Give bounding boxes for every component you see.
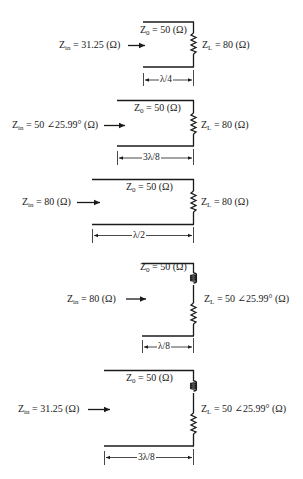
- panel-1-length-label: λ/4: [159, 74, 173, 85]
- panel-2-z0-label: Z0 = 50 (Ω): [134, 102, 181, 117]
- panel-4-zin-label: Zin = 80 (Ω): [67, 293, 116, 308]
- panel-3-zl-label: ZL = 80 (Ω): [201, 196, 249, 211]
- panel-5-zl-label: ZL = 50 ∠25.99° (Ω): [201, 403, 286, 418]
- panel-2-length-label: 3λ/8: [142, 152, 161, 163]
- resistor-icon: [191, 191, 196, 212]
- panel-2-zl-label: ZL = 80 (Ω): [201, 119, 249, 134]
- panel-1-z0-label: Z0 = 50 (Ω): [140, 24, 187, 39]
- resistor-icon: [191, 413, 196, 434]
- panel-4-z0-label: Z0 = 50 (Ω): [140, 261, 187, 276]
- inductor-icon: [191, 273, 197, 283]
- panel-5-z0-label: Z0 = 50 (Ω): [126, 372, 173, 387]
- panel-4-line: [126, 263, 197, 353]
- panel-3-length-label: λ/2: [132, 230, 146, 241]
- panel-4-zl-label: ZL = 50 ∠25.99° (Ω): [204, 293, 289, 308]
- resistor-icon: [191, 113, 196, 134]
- inductor-icon: [191, 381, 197, 391]
- resistor-icon: [191, 33, 196, 54]
- panel-3-z0-label: Z0 = 50 (Ω): [126, 181, 173, 196]
- resistor-icon: [191, 303, 196, 324]
- panel-4-length-label: λ/8: [157, 341, 171, 352]
- panel-5-zin-label: Zin = 31.25 (Ω): [18, 403, 79, 418]
- panel-2-zin-label: Zin = 50 ∠25.99° (Ω): [12, 119, 98, 134]
- panel-5-length-label: 3λ/8: [137, 452, 156, 463]
- panel-3-zin-label: Zin = 80 (Ω): [22, 196, 71, 211]
- panel-1-zl-label: ZL = 80 (Ω): [202, 39, 250, 54]
- panel-1-zin-label: Zin = 31.25 (Ω): [59, 39, 120, 54]
